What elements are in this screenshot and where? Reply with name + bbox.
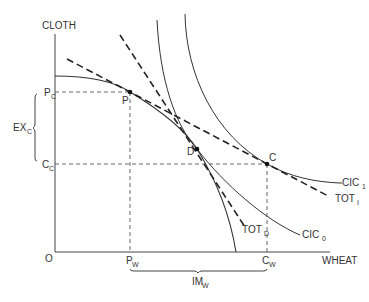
point-d-marker [195,147,200,152]
cic1-label: CIC 1 [340,177,366,190]
pw-marker: P W [126,255,139,268]
svg-text:P: P [44,87,51,98]
tot-d-label: TOT D [242,224,269,237]
point-d-label: D [187,146,194,157]
exports-label: EX C [13,122,32,135]
tot-i-line [67,59,330,197]
trade-diagram: CLOTH WHEAT O P D C P C C C P W C W EX [0,0,369,302]
svg-text:D: D [264,230,269,237]
exports-bracket [33,94,37,161]
svg-text:C: C [51,93,56,100]
svg-text:I: I [357,199,359,206]
svg-text:C: C [49,165,54,172]
pc-marker: P C [44,87,56,100]
guide-lines [55,92,267,252]
svg-text:W: W [202,282,209,289]
imports-bracket [130,269,267,273]
svg-text:W: W [269,261,276,268]
origin-label: O [45,253,53,264]
cic0-label: CIC 0 [302,229,326,242]
svg-text:C: C [27,128,32,135]
x-axis-label: WHEAT [322,255,357,266]
imports-label: IM W [192,276,209,289]
point-p-marker [128,90,133,95]
tot-d-line [120,35,245,227]
svg-text:EX: EX [13,122,27,133]
svg-text:1: 1 [362,183,366,190]
point-p-label: P [122,95,129,106]
svg-text:CIC: CIC [342,177,359,188]
svg-text:W: W [132,261,139,268]
tot-i-label: TOT I [335,193,359,206]
y-axis-label: CLOTH [42,20,76,31]
svg-text:0: 0 [322,235,326,242]
svg-text:CIC: CIC [302,229,319,240]
cic1-curve [185,14,340,183]
svg-text:TOT: TOT [335,193,355,204]
cw-marker: C W [262,255,276,268]
cc-marker: C C [42,159,54,172]
svg-text:TOT: TOT [242,224,262,235]
point-c-label: C [269,152,276,163]
